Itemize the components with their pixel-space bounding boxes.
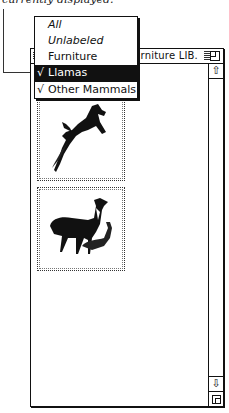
- llamas-image: [42, 192, 120, 266]
- menu-item-label: Llamas: [48, 66, 87, 79]
- menu-item-label: Unlabeled: [48, 34, 103, 47]
- menu-item-all[interactable]: All: [35, 17, 137, 33]
- menu-item-label: Furniture: [48, 50, 97, 63]
- scroll-down-arrow-icon[interactable]: ⇩: [209, 376, 223, 391]
- checkmark-icon: √: [37, 65, 44, 81]
- callout-line-vertical: [3, 9, 4, 73]
- menu-item-label: All: [48, 18, 62, 31]
- menu-item-unlabeled[interactable]: Unlabeled: [35, 33, 137, 49]
- menu-item-label: Other Mammals: [48, 83, 136, 96]
- vertical-scrollbar[interactable]: ⇧ ⇩: [208, 64, 223, 406]
- zoom-box[interactable]: [204, 51, 220, 60]
- gazelle-image: [42, 102, 120, 176]
- library-content: [31, 64, 208, 406]
- caption-text: currently displayed.: [2, 0, 114, 6]
- resize-grow-box-icon[interactable]: [209, 391, 223, 406]
- menu-item-other-mammals[interactable]: √ Other Mammals: [35, 81, 137, 98]
- zoom-icon[interactable]: [210, 51, 220, 61]
- label-filter-menu: All Unlabeled Furniture √ Llamas √ Other…: [34, 16, 138, 99]
- thumbnail-llamas[interactable]: [37, 187, 125, 271]
- thumbnail-gazelle[interactable]: [37, 97, 125, 181]
- menu-item-llamas[interactable]: √ Llamas: [35, 65, 137, 81]
- library-window: rniture LIB. ⇧ ⇩: [30, 48, 224, 407]
- menu-item-furniture[interactable]: Furniture: [35, 49, 137, 65]
- window-title: rniture LIB.: [138, 49, 202, 63]
- checkmark-icon: √: [37, 82, 44, 98]
- scroll-up-arrow-icon[interactable]: ⇧: [209, 64, 223, 79]
